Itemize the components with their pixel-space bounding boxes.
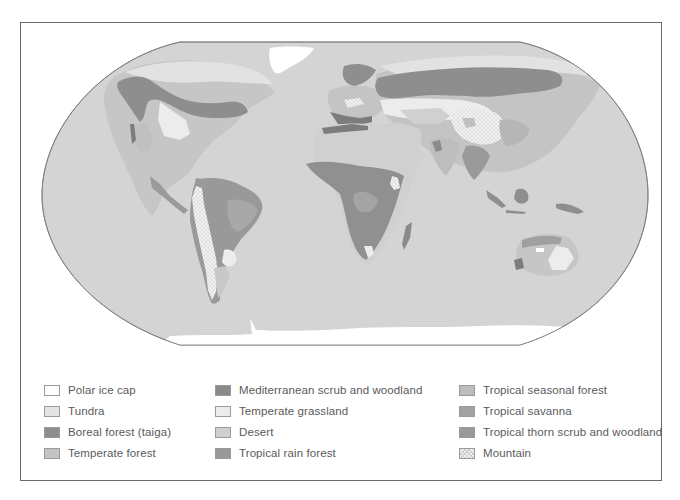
polar-ice-cap-swatch-icon <box>44 385 60 396</box>
legend-label: Boreal forest (taiga) <box>68 426 171 438</box>
desert-swatch-icon <box>215 427 231 438</box>
tundra-swatch-icon <box>44 406 60 417</box>
legend-item-tropical-thorn-scrub: Tropical thorn scrub and woodland <box>459 425 662 439</box>
tropical-seasonal-forest-swatch-icon <box>459 385 475 396</box>
legend-item-tropical-rain-forest: Tropical rain forest <box>215 446 336 460</box>
legend-label: Polar ice cap <box>68 384 136 396</box>
legend-label: Desert <box>239 426 273 438</box>
legend-item-desert: Desert <box>215 425 273 439</box>
mountain-swatch-icon <box>459 448 475 459</box>
temperate-forest-swatch-icon <box>44 448 60 459</box>
legend-item-temperate-grassland: Temperate grassland <box>215 404 348 418</box>
australia-desert-center <box>536 248 544 252</box>
mediterranean-scrub-swatch-icon <box>215 385 231 396</box>
temperate-grassland-swatch-icon <box>215 406 231 417</box>
legend-item-tropical-savanna: Tropical savanna <box>459 404 572 418</box>
legend-label: Tropical savanna <box>483 405 572 417</box>
legend-label: Tropical seasonal forest <box>483 384 607 396</box>
legend-label: Temperate forest <box>68 447 156 459</box>
boreal-forest-swatch-icon <box>44 427 60 438</box>
legend-label: Tropical thorn scrub and woodland <box>483 426 662 438</box>
legend-item-mediterranean-scrub: Mediterranean scrub and woodland <box>215 383 422 397</box>
legend-label: Temperate grassland <box>239 405 348 417</box>
legend-label: Mediterranean scrub and woodland <box>239 384 422 396</box>
legend-item-mountain: Mountain <box>459 446 531 460</box>
legend-label: Tundra <box>68 405 105 417</box>
legend-label: Tropical rain forest <box>239 447 336 459</box>
tropical-thorn-scrub-swatch-icon <box>459 427 475 438</box>
legend-item-tundra: Tundra <box>44 404 105 418</box>
legend-item-temperate-forest: Temperate forest <box>44 446 156 460</box>
tropical-savanna-swatch-icon <box>459 406 475 417</box>
legend-label: Mountain <box>483 447 531 459</box>
tropical-rain-forest-swatch-icon <box>215 448 231 459</box>
legend-item-polar-ice-cap: Polar ice cap <box>44 383 136 397</box>
legend-item-boreal-forest: Boreal forest (taiga) <box>44 425 171 439</box>
legend-item-tropical-seasonal-forest: Tropical seasonal forest <box>459 383 607 397</box>
